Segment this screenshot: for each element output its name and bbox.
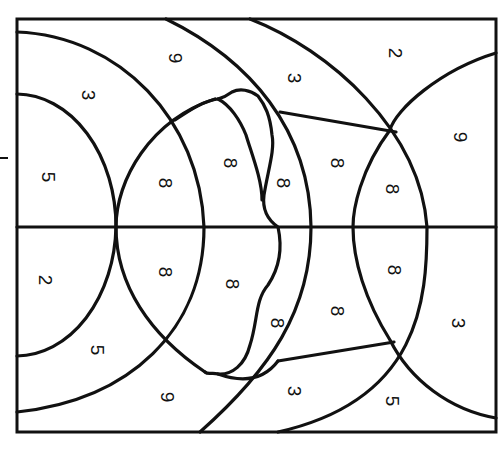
region-label: 8 [155, 178, 176, 189]
central-blob [175, 90, 280, 374]
region-label: 5 [87, 345, 108, 356]
region-label: 3 [448, 318, 469, 329]
region-label: 8 [155, 267, 176, 278]
left-outer-arc [17, 32, 204, 412]
region-label: 8 [382, 184, 403, 195]
region-label: 3 [284, 73, 305, 84]
region-label: 8 [222, 279, 243, 290]
region-label: 8 [327, 306, 348, 317]
region-label: 9 [157, 392, 178, 403]
blob-inner-edge [218, 99, 262, 200]
region-label: 5 [382, 396, 403, 407]
region-label: 8 [384, 265, 405, 276]
region-label: 3 [284, 386, 305, 397]
blob-bottom-edge [218, 361, 278, 379]
region-label: 8 [267, 318, 288, 329]
region-label: 9 [165, 53, 186, 64]
region-label: 8 [273, 178, 294, 189]
region-label: 5 [38, 172, 59, 183]
left-inner-arc [17, 94, 116, 356]
region-label: 2 [385, 48, 406, 59]
region-label: 3 [78, 90, 99, 101]
region-label: 8 [327, 158, 348, 169]
region-label: 9 [450, 132, 471, 143]
lower-tie-line [278, 342, 394, 361]
region-label: 2 [35, 275, 56, 286]
region-diagram: 5 3 9 8 8 8 3 8 2 8 9 2 5 9 8 8 8 3 8 8 … [0, 0, 500, 449]
region-label: 8 [220, 158, 241, 169]
lens-left-arc [116, 99, 215, 372]
